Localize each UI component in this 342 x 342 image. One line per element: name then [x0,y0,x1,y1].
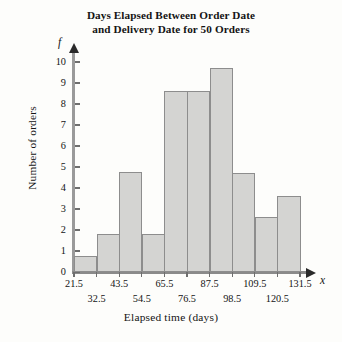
x-tick-label: 98.5 [212,293,252,304]
histogram-bar [74,256,97,272]
x-tick [186,272,187,277]
x-tick [277,272,278,277]
y-tick-label: 9 [44,77,66,88]
x-tick-label: 109.5 [235,278,275,289]
x-tick-label: 43.5 [99,278,139,289]
plot-area: f x Number of orders 012345678910 21.532… [0,0,342,342]
y-tick-label: 0 [44,266,66,277]
histogram-figure: Days Elapsed Between Order Date and Deli… [0,0,342,342]
x-tick-label: 21.5 [54,278,94,289]
x-tick [119,272,120,277]
x-axis-variable-label: x [320,274,325,286]
y-tick-label: 2 [44,224,66,235]
histogram-bar [97,234,120,272]
x-tick [232,272,233,277]
y-tick-label: 6 [44,140,66,151]
x-axis-arrow-icon [306,268,316,278]
x-tick [73,272,74,277]
histogram-bar [187,91,210,272]
histogram-bar [119,172,142,272]
x-axis-title: Elapsed time (days) [0,311,342,323]
histogram-bar [232,173,255,272]
x-tick-label: 32.5 [77,293,117,304]
y-tick-label: 7 [44,119,66,130]
y-tick-label: 5 [44,161,66,172]
histogram-bar [277,196,300,272]
histogram-bar [255,217,278,272]
y-tick-label: 8 [44,98,66,109]
y-tick-label: 1 [44,245,66,256]
y-axis-title: Number of orders [26,78,38,218]
x-tick [254,272,255,277]
histogram-bar [210,68,233,272]
x-tick [141,272,142,277]
x-tick-label: 54.5 [122,293,162,304]
x-tick [164,272,165,277]
x-tick-label: 120.5 [257,293,297,304]
y-axis-variable-label: f [58,36,61,48]
histogram-bar [164,91,187,272]
x-tick-label: 131.5 [280,278,320,289]
bars-group [74,52,300,272]
y-tick-label: 10 [44,56,66,67]
y-tick-label: 4 [44,182,66,193]
histogram-bar [142,234,165,272]
x-tick [209,272,210,277]
x-tick [299,272,300,277]
x-tick-label: 87.5 [190,278,230,289]
y-tick-label: 3 [44,203,66,214]
x-tick-label: 76.5 [167,293,207,304]
x-tick-label: 65.5 [144,278,184,289]
x-tick [96,272,97,277]
